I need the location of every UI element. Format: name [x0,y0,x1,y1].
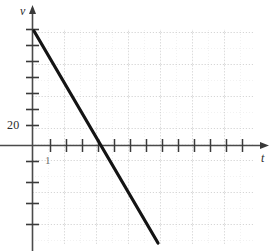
velocity-time-graph: v t 20 1 [0,0,271,251]
y-tick-label-20: 20 [7,119,20,131]
plot-area [0,0,271,251]
x-axis-label: t [261,152,264,164]
grid-major [32,29,254,244]
y-axis-label: v [20,5,25,17]
x-tick-label-1: 1 [45,155,51,166]
